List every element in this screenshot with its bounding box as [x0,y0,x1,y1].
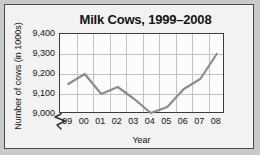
y-axis-tick-9200: 9,200 [9,68,55,78]
y-axis-tick-9400: 9,400 [9,28,55,38]
y-axis-tick-labels: 9,0009,1009,2009,3009,400 [9,33,55,113]
page-title: Milk Cows, 1999–2008 [63,12,228,27]
plot-area [59,33,224,113]
x-axis-label: Year [59,135,224,145]
x-axis-tick-08: 08 [204,116,228,126]
x-axis-tick-labels: 99000102030405060708 [59,116,224,130]
y-axis-tick-9000: 9,000 [9,108,55,118]
chart-figure: Milk Cows, 1999–2008 Number of cows (in … [4,4,254,149]
data-series-line [60,34,225,114]
y-axis-tick-9100: 9,100 [9,88,55,98]
y-axis-tick-9300: 9,300 [9,48,55,58]
